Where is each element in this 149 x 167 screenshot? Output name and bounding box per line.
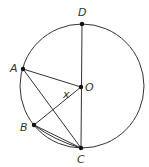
geometry-diagram: ABCDO x <box>0 0 149 167</box>
label-C: C <box>77 153 85 166</box>
point-A <box>21 67 25 71</box>
label-A: A <box>9 62 18 75</box>
label-O: O <box>85 81 94 94</box>
label-D: D <box>78 6 86 19</box>
point-B <box>32 123 36 127</box>
segments <box>23 24 82 148</box>
segment-BC <box>34 125 81 148</box>
point-C <box>79 146 83 150</box>
point-O <box>79 85 83 89</box>
segment-BO <box>34 87 81 125</box>
segment-AO <box>23 69 81 87</box>
points <box>21 22 84 150</box>
label-B: B <box>20 121 28 134</box>
point-D <box>80 22 84 26</box>
angle-x-label: x <box>62 88 70 101</box>
